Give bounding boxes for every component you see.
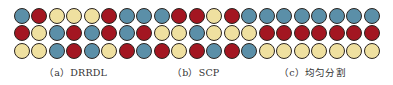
yellow-circle-icon bbox=[364, 43, 380, 59]
panel-label-a: （a）DRRDL bbox=[44, 65, 107, 79]
blue-circle-icon bbox=[346, 8, 362, 24]
blue-circle-icon bbox=[364, 8, 380, 24]
yellow-circle-icon bbox=[49, 8, 65, 24]
panel-label-b: （b）SCP bbox=[172, 65, 219, 79]
yellow-circle-icon bbox=[294, 43, 310, 59]
yellow-circle-icon bbox=[14, 43, 30, 59]
blue-circle-icon bbox=[329, 8, 345, 24]
blue-circle-icon bbox=[206, 43, 222, 59]
red-circle-icon bbox=[136, 25, 152, 41]
yellow-circle-icon bbox=[276, 43, 292, 59]
red-circle-icon bbox=[294, 25, 310, 41]
yellow-circle-icon bbox=[31, 25, 47, 41]
red-circle-icon bbox=[189, 43, 205, 59]
yellow-circle-icon bbox=[66, 8, 82, 24]
blue-circle-icon bbox=[136, 43, 152, 59]
blue-circle-icon bbox=[49, 43, 65, 59]
yellow-circle-icon bbox=[84, 8, 100, 24]
red-circle-icon bbox=[31, 8, 47, 24]
red-circle-icon bbox=[171, 8, 187, 24]
red-circle-icon bbox=[364, 25, 380, 41]
red-circle-icon bbox=[101, 25, 117, 41]
blue-circle-icon bbox=[259, 8, 275, 24]
yellow-circle-icon bbox=[31, 43, 47, 59]
yellow-circle-icon bbox=[101, 43, 117, 59]
red-circle-icon bbox=[311, 25, 327, 41]
blue-circle-icon bbox=[84, 43, 100, 59]
blue-circle-icon bbox=[311, 8, 327, 24]
red-circle-icon bbox=[154, 43, 170, 59]
blue-circle-icon bbox=[241, 8, 257, 24]
blue-circle-icon bbox=[241, 43, 257, 59]
blue-circle-icon bbox=[154, 8, 170, 24]
red-circle-icon bbox=[224, 43, 240, 59]
yellow-circle-icon bbox=[171, 43, 187, 59]
yellow-circle-icon bbox=[259, 43, 275, 59]
red-circle-icon bbox=[189, 8, 205, 24]
yellow-circle-icon bbox=[171, 25, 187, 41]
yellow-circle-icon bbox=[224, 25, 240, 41]
blue-circle-icon bbox=[294, 8, 310, 24]
panel-label-c: （c）均匀分割 bbox=[279, 65, 346, 79]
red-circle-icon bbox=[329, 25, 345, 41]
red-circle-icon bbox=[101, 8, 117, 24]
red-circle-icon bbox=[14, 25, 30, 41]
red-circle-icon bbox=[224, 8, 240, 24]
red-circle-icon bbox=[276, 25, 292, 41]
blue-circle-icon bbox=[14, 8, 30, 24]
blue-circle-icon bbox=[136, 8, 152, 24]
circle-grid bbox=[0, 0, 393, 64]
blue-circle-icon bbox=[84, 25, 100, 41]
blue-circle-icon bbox=[49, 25, 65, 41]
yellow-circle-icon bbox=[241, 25, 257, 41]
blue-circle-icon bbox=[189, 25, 205, 41]
red-circle-icon bbox=[66, 43, 82, 59]
yellow-circle-icon bbox=[206, 25, 222, 41]
red-circle-icon bbox=[66, 25, 82, 41]
yellow-circle-icon bbox=[311, 43, 327, 59]
yellow-circle-icon bbox=[154, 25, 170, 41]
blue-circle-icon bbox=[119, 8, 135, 24]
yellow-circle-icon bbox=[206, 8, 222, 24]
blue-circle-icon bbox=[276, 8, 292, 24]
red-circle-icon bbox=[346, 25, 362, 41]
red-circle-icon bbox=[119, 43, 135, 59]
yellow-circle-icon bbox=[346, 43, 362, 59]
red-circle-icon bbox=[259, 25, 275, 41]
yellow-circle-icon bbox=[329, 43, 345, 59]
blue-circle-icon bbox=[119, 25, 135, 41]
